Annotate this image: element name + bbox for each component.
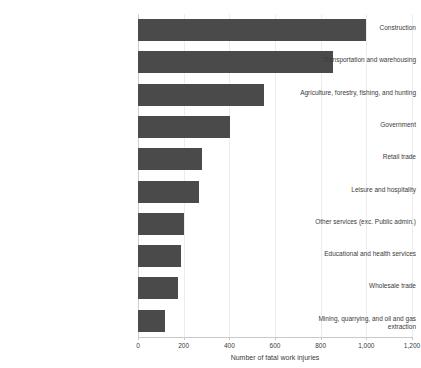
bar[interactable] [138, 277, 178, 299]
bar[interactable] [138, 245, 181, 267]
category-label: Transportation and warehousing [289, 56, 421, 65]
x-tick-label: 1,000 [358, 341, 374, 350]
x-tick-mark [412, 337, 413, 340]
x-tick-mark [184, 337, 185, 340]
category-label: Educational and health services [289, 250, 421, 259]
x-tick-mark [366, 337, 367, 340]
bar[interactable] [138, 213, 184, 235]
x-tick-label: 1,200 [404, 341, 420, 350]
category-label: Agriculture, forestry, fishing, and hunt… [289, 89, 421, 98]
category-label: Leisure and hospitality [289, 186, 421, 195]
category-label: Other services (exc. Public admin.) [289, 218, 421, 227]
bar-chart: ConstructionTransportation and warehousi… [0, 0, 421, 368]
x-tick-label: 200 [178, 341, 189, 350]
bar[interactable] [138, 84, 264, 106]
x-axis-title: Number of fatal work injuries [138, 353, 412, 362]
category-label: Government [289, 121, 421, 130]
x-tick-label: 400 [224, 341, 235, 350]
category-label: Retail trade [289, 153, 421, 162]
category-label: Wholesale trade [289, 282, 421, 291]
x-tick-mark [138, 337, 139, 340]
x-tick-mark [321, 337, 322, 340]
category-label: Construction [289, 24, 421, 33]
bar[interactable] [138, 116, 230, 138]
x-tick-label: 600 [270, 341, 281, 350]
bar[interactable] [138, 148, 202, 170]
category-label: Mining, quarrying, and oil and gas extra… [289, 315, 421, 332]
x-tick-label: 800 [315, 341, 326, 350]
bar[interactable] [138, 310, 165, 332]
bar[interactable] [138, 181, 199, 203]
x-tick-mark [275, 337, 276, 340]
x-tick-label: 0 [136, 341, 140, 350]
x-tick-mark [229, 337, 230, 340]
